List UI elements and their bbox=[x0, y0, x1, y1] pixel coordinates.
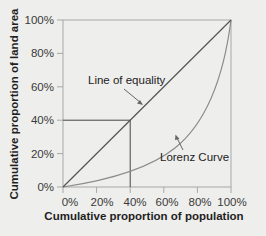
y-tick-label: 0% bbox=[37, 181, 54, 193]
x-tick-label: 20% bbox=[90, 196, 113, 208]
x-tick-label: 100% bbox=[217, 196, 246, 208]
y-tick-label: 80% bbox=[31, 47, 54, 59]
y-tick-label: 40% bbox=[31, 114, 54, 126]
y-tick-label: 60% bbox=[31, 81, 54, 93]
y-tick-label: 20% bbox=[31, 148, 54, 160]
x-ticks bbox=[63, 187, 231, 193]
chart-svg: 0% 20% 40% 60% 80% 100% 0% 20% 40% 60% 8… bbox=[0, 0, 266, 236]
lorenz-label: Lorenz Curve bbox=[160, 151, 229, 163]
x-tick-label: 0% bbox=[62, 196, 79, 208]
lorenz-chart: 0% 20% 40% 60% 80% 100% 0% 20% 40% 60% 8… bbox=[0, 0, 266, 236]
y-tick-label: 100% bbox=[25, 14, 54, 26]
x-tick-label: 60% bbox=[155, 196, 178, 208]
equality-pointer bbox=[124, 89, 141, 103]
x-axis-title: Cumulative proportion of population bbox=[44, 210, 243, 222]
y-axis-title: Cumulative proportion of land area bbox=[8, 8, 20, 200]
y-ticks bbox=[57, 20, 63, 187]
x-tick-label: 40% bbox=[123, 196, 146, 208]
lorenz-pointer bbox=[177, 138, 183, 150]
x-tick-label: 80% bbox=[188, 196, 211, 208]
equality-label: Line of equality bbox=[88, 74, 166, 86]
arrowhead-icon bbox=[175, 135, 180, 141]
